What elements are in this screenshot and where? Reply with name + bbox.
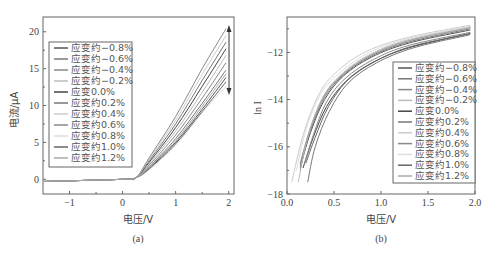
legend-entry: 应变约0.4% [415, 127, 469, 138]
legend-entry: 应变约1.0% [71, 141, 125, 152]
legend-entry: 应变约0.2% [415, 116, 469, 127]
y-tick-label: −14 [267, 94, 283, 105]
x-tick-label: 1.0 [375, 197, 388, 208]
legend-entry: 应变约−0.2% [71, 75, 133, 86]
legend-entry: 应变约0.4% [71, 108, 125, 119]
y-tick-label: 20 [29, 26, 39, 37]
legend-entry: 应变约−0.2% [415, 94, 477, 105]
legend-entry: 应变约−0.4% [415, 84, 477, 95]
x-tick-label: 0.5 [328, 197, 341, 208]
x-tick-label: 0 [120, 197, 125, 208]
y-tick-label: 5 [34, 137, 39, 148]
legend-entry: 应变约0.6% [71, 119, 125, 130]
legend-entry: 应变约0.8% [415, 148, 469, 159]
legend-entry: 应变约1.2% [415, 170, 469, 181]
y-tick-label: 15 [29, 63, 39, 74]
legend-a: 应变约−0.8%应变约−0.6%应变约−0.4%应变约−0.2%应变0.0%应变… [49, 42, 133, 167]
legend-entry: 应变0.0% [71, 86, 115, 97]
legend-entry: 应变约−0.8% [415, 62, 477, 73]
chart-panel-a: −101205101520 应变约−0.8%应变约−0.6%应变约−0.4%应变… [8, 17, 234, 245]
legend-entry: 应变约0.2% [71, 97, 125, 108]
y-tick-label: −18 [267, 189, 283, 200]
x-tick-label: 2 [226, 197, 231, 208]
x-tick-label: 2.0 [469, 197, 482, 208]
legend-entry: 应变约1.2% [71, 152, 125, 163]
x-tick-label: −1 [64, 197, 75, 208]
x-tick-label: 1 [173, 197, 178, 208]
legend-entry: 应变约−0.6% [415, 73, 477, 84]
y-tick-label: −12 [267, 47, 283, 58]
legend-entry: 应变约0.8% [71, 130, 125, 141]
x-axis-label-b: 电压/V [366, 213, 396, 225]
x-tick-label: 1.5 [422, 197, 435, 208]
legend-entry: 应变0.0% [415, 105, 459, 116]
y-tick-label: 0 [34, 174, 39, 185]
y-axis-label-a: 电流/μA [8, 92, 20, 129]
chart-panel-b: 0.00.51.01.52.0−18−16−14−12 应变约−0.8%应变约−… [252, 17, 481, 245]
y-axis-label-b: ln I [252, 101, 263, 115]
legend-entry: 应变约0.6% [415, 138, 469, 149]
panel-label-a: (a) [132, 233, 143, 245]
legend-entry: 应变约1.0% [415, 159, 469, 170]
legend-entry: 应变约−0.4% [71, 64, 133, 75]
legend-entry: 应变约−0.6% [71, 53, 133, 64]
y-tick-label: 10 [29, 100, 39, 111]
figure: −101205101520 应变约−0.8%应变约−0.6%应变约−0.4%应变… [0, 0, 496, 253]
panel-label-b: (b) [375, 233, 387, 245]
strain-arrow [227, 25, 232, 95]
legend-entry: 应变约−0.8% [71, 42, 133, 53]
legend-b: 应变约−0.8%应变约−0.6%应变约−0.4%应变约−0.2%应变0.0%应变… [393, 62, 477, 183]
y-tick-label: −16 [267, 141, 283, 152]
x-axis-label-a: 电压/V [123, 213, 153, 225]
